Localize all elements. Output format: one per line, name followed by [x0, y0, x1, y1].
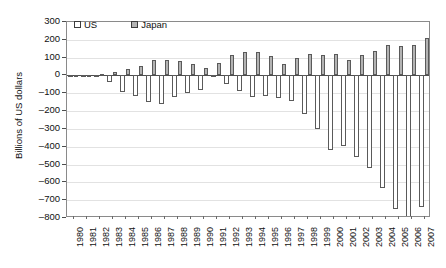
bar-us-1991 [211, 75, 215, 77]
bar-group [106, 22, 119, 216]
x-axis-tick-label-1996: 1996 [284, 227, 293, 247]
bar-us-2006 [406, 75, 410, 217]
x-axis-tick-label-2005: 2005 [401, 227, 410, 247]
chart-legend: US Japan [74, 19, 167, 30]
bar-group [67, 22, 80, 216]
x-axis-tick-mark [125, 216, 126, 219]
x-axis-tick-mark [385, 216, 386, 219]
bar-japan-1994 [256, 52, 260, 75]
x-axis-tick-mark [99, 216, 100, 219]
bar-japan-2006 [412, 45, 416, 75]
x-axis-tick-label-2002: 2002 [362, 227, 371, 247]
bar-us-2002 [354, 75, 358, 157]
legend-item-japan: Japan [131, 19, 167, 30]
bar-japan-1996 [282, 64, 286, 76]
x-axis-tick-mark [242, 216, 243, 219]
x-axis-tick-label-1998: 1998 [310, 227, 319, 247]
bar-japan-1985 [139, 66, 143, 75]
x-axis-tick-label-2003: 2003 [375, 227, 384, 247]
bar-japan-1986 [152, 60, 156, 75]
x-axis-tick-mark [190, 216, 191, 219]
y-axis-tick-label: 200 [18, 34, 60, 44]
bar-us-1989 [185, 75, 189, 93]
bar-japan-1988 [178, 61, 182, 75]
bar-group [301, 22, 314, 216]
bar-japan-1997 [295, 58, 299, 75]
x-axis-tick-mark [346, 216, 347, 219]
bar-group [418, 22, 430, 216]
x-axis-tick-mark [411, 216, 412, 219]
x-axis-tick-mark [281, 216, 282, 219]
x-axis-tick-mark [177, 216, 178, 219]
bar-japan-1987 [165, 60, 169, 76]
y-axis-tick-label: –200 [18, 105, 60, 115]
bar-us-1992 [224, 75, 228, 84]
bar-group [392, 22, 405, 216]
x-axis-tick-label-2001: 2001 [349, 227, 358, 247]
y-axis-tick-label: –700 [18, 194, 60, 204]
bar-japan-1983 [113, 72, 117, 76]
bar-group [249, 22, 262, 216]
y-axis-tick-label: –600 [18, 176, 60, 186]
bar-us-1996 [276, 75, 280, 97]
bar-us-1993 [237, 75, 241, 90]
x-axis-tick-mark [398, 216, 399, 219]
x-axis-tick-mark [294, 216, 295, 219]
x-axis-tick-mark [307, 216, 308, 219]
bar-us-1988 [172, 75, 176, 97]
bar-us-1987 [159, 75, 163, 104]
bar-us-1980 [68, 75, 72, 77]
bar-group [353, 22, 366, 216]
bar-japan-1993 [243, 52, 247, 76]
legend-label-japan: Japan [141, 19, 167, 30]
y-axis-tick-label: 0 [18, 69, 60, 79]
x-axis-tick-mark [216, 216, 217, 219]
white-square-swatch-icon [74, 21, 81, 28]
bar-japan-1998 [308, 54, 312, 75]
bar-japan-1982 [100, 74, 104, 76]
x-axis-tick-mark [112, 216, 113, 219]
bar-japan-2001 [347, 60, 351, 76]
bar-group [379, 22, 392, 216]
bar-us-2001 [341, 75, 345, 146]
bar-japan-1991 [217, 63, 221, 75]
bar-group [288, 22, 301, 216]
bar-group [171, 22, 184, 216]
bar-japan-1981 [87, 75, 91, 77]
bar-group [80, 22, 93, 216]
bar-japan-1980 [74, 75, 78, 77]
bar-group [145, 22, 158, 216]
y-axis-tick-label: 300 [18, 16, 60, 26]
bar-us-2005 [393, 75, 397, 208]
bar-us-1997 [289, 75, 293, 100]
x-axis-tick-label-1984: 1984 [128, 227, 137, 247]
bar-us-1995 [263, 75, 267, 95]
x-axis-tick-label-1992: 1992 [232, 227, 241, 247]
bar-us-1984 [120, 75, 124, 92]
x-axis-tick-label-1981: 1981 [89, 227, 98, 247]
bar-us-1990 [198, 75, 202, 89]
y-axis-tick-label: –300 [18, 123, 60, 133]
bar-us-1998 [302, 75, 306, 113]
chart-figure: Billions of US dollars 3002001000–100–20… [0, 0, 446, 268]
x-axis-tick-label-1999: 1999 [323, 227, 332, 247]
x-axis-tick-label-2000: 2000 [336, 227, 345, 247]
x-axis-tick-label-1986: 1986 [154, 227, 163, 247]
bar-us-1994 [250, 75, 254, 97]
x-axis-tick-label-1991: 1991 [219, 227, 228, 247]
bar-group [366, 22, 379, 216]
bar-series-container [67, 22, 429, 216]
bar-japan-1984 [126, 69, 130, 75]
x-axis-tick-label-1980: 1980 [76, 227, 85, 247]
bar-us-2007 [419, 75, 423, 206]
x-axis-tick-mark [86, 216, 87, 219]
bar-japan-1989 [191, 64, 195, 75]
x-axis-tick-mark [359, 216, 360, 219]
x-axis-tick-mark [424, 216, 425, 219]
bar-us-1999 [315, 75, 319, 129]
bar-group [119, 22, 132, 216]
bar-group [262, 22, 275, 216]
x-axis-tick-label-1985: 1985 [141, 227, 150, 247]
x-axis-tick-label-1995: 1995 [271, 227, 280, 247]
x-axis-tick-mark [138, 216, 139, 219]
